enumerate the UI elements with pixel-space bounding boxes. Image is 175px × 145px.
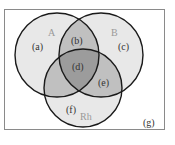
set-label-b: B (111, 27, 118, 38)
region-label-c: (c) (118, 41, 129, 53)
venn-diagram: A B Rh (a) (b) (c) (d) (e) (f) (g) (0, 0, 175, 145)
region-label-a: (a) (32, 41, 43, 53)
region-label-b: (b) (71, 35, 83, 47)
region-label-e: (e) (98, 77, 109, 89)
region-label-g: (g) (143, 117, 155, 129)
region-label-d: (d) (72, 61, 84, 73)
set-label-a: A (48, 27, 56, 38)
set-label-rh: Rh (80, 111, 92, 122)
region-label-f: (f) (66, 104, 76, 116)
